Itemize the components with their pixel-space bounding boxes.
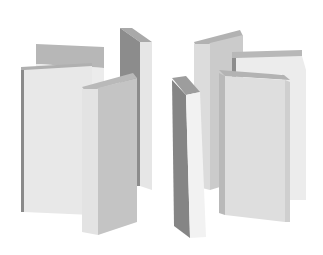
left-front-wide-slab-face-1 [21,70,24,212]
left-front-tall-slab-face-2 [98,78,137,235]
left-front-tall-slab [82,73,137,235]
left-front-wide-slab-face-2 [24,66,92,215]
slab-render-canvas [0,0,323,255]
right-front-center-slab [219,70,290,222]
left-front-tall-slab-face-1 [82,89,98,235]
right-front-center-slab-face-3 [285,80,290,222]
left-front-wide-slab [21,63,92,215]
right-front-center-slab-face-1 [219,73,225,215]
right-front-center-slab-face-2 [225,76,285,222]
left-tall-right-slab-face-2 [140,42,152,190]
slab-render-scene [0,0,323,255]
